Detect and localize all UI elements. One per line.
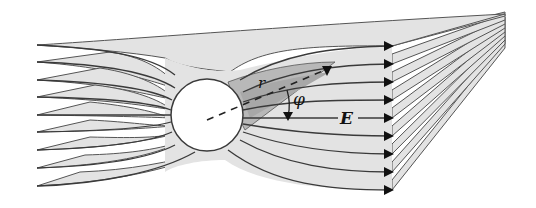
angle-label: φ — [293, 89, 305, 109]
sphere — [171, 79, 243, 151]
field-label: E — [339, 108, 354, 128]
radius-label: r — [258, 74, 266, 92]
field-arrowheads — [384, 41, 394, 195]
field-diagram: r φ E — [0, 0, 536, 208]
